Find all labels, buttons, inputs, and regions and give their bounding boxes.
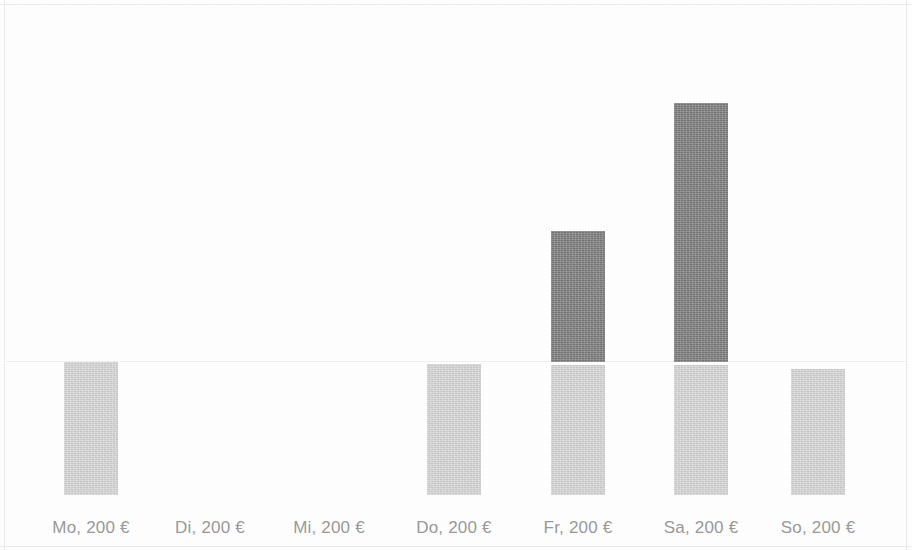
bar-segment-base — [674, 365, 728, 495]
bar-segment-base — [551, 365, 605, 495]
stacked-bar-chart: Mo, 200 €Di, 200 €Mi, 200 €Do, 200 €Fr, … — [0, 0, 912, 550]
bar-segment-extra — [674, 103, 728, 362]
bar-segment-extra — [551, 231, 605, 362]
bar-stack — [791, 369, 845, 495]
bar-stack — [674, 103, 728, 495]
bar-stack — [551, 231, 605, 495]
bar-segment-base — [791, 369, 845, 495]
bar-segment-base — [427, 364, 481, 495]
bar-segment-base — [64, 362, 118, 495]
bar-stack — [427, 364, 481, 495]
bar-stack — [64, 362, 118, 495]
x-axis-label: So, 200 € — [738, 518, 898, 538]
scan-smudge-line — [6, 361, 906, 362]
plot-area: Mo, 200 €Di, 200 €Mi, 200 €Do, 200 €Fr, … — [0, 0, 912, 550]
